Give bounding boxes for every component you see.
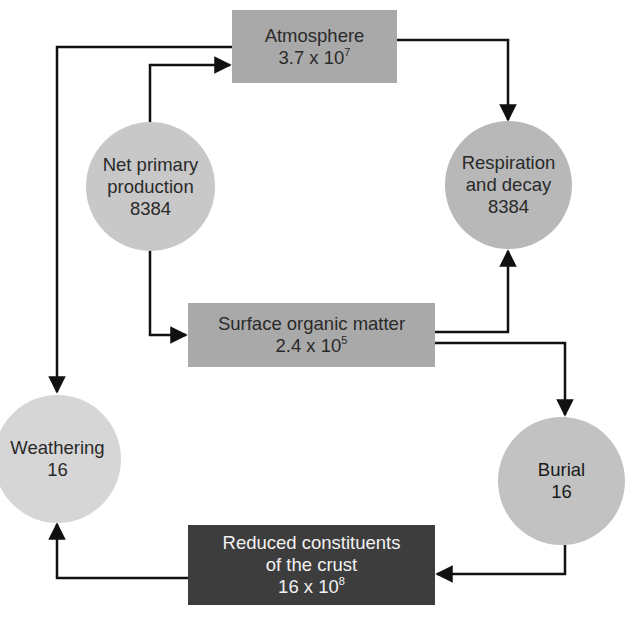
surface-label: Surface organic matter xyxy=(218,313,405,335)
npp-line1: Net primary xyxy=(103,154,199,176)
arrow-surface-to-respiration xyxy=(435,251,508,332)
respiration-decay-circle: Respiration and decay 8384 xyxy=(445,121,572,249)
arrow-crust-to-weathering xyxy=(57,524,188,578)
respiration-line2: and decay xyxy=(466,174,551,196)
surface-value: 2.4 x 105 xyxy=(276,335,348,357)
respiration-value: 8384 xyxy=(488,196,529,218)
npp-value: 8384 xyxy=(130,198,171,220)
burial-value: 16 xyxy=(551,481,572,503)
crust-line2: of the crust xyxy=(266,554,358,576)
arrow-atmosphere-to-respiration xyxy=(397,40,508,120)
surface-organic-matter-box: Surface organic matter 2.4 x 105 xyxy=(188,303,435,367)
arrow-npp-to-surface xyxy=(150,250,186,335)
arrow-npp-to-atmosphere xyxy=(150,65,230,122)
atmosphere-box: Atmosphere 3.7 x 107 xyxy=(232,10,397,83)
crust-line1: Reduced constituents xyxy=(223,532,401,554)
weathering-value: 16 xyxy=(47,459,68,481)
reduced-crust-box: Reduced constituents of the crust 16 x 1… xyxy=(188,525,435,605)
respiration-line1: Respiration xyxy=(462,152,556,174)
npp-line2: production xyxy=(107,176,193,198)
burial-label: Burial xyxy=(538,459,585,481)
weathering-circle: Weathering 16 xyxy=(0,395,121,523)
burial-circle: Burial 16 xyxy=(498,417,625,545)
atmosphere-value: 3.7 x 107 xyxy=(279,47,351,69)
crust-value: 16 x 108 xyxy=(278,576,345,598)
atmosphere-label: Atmosphere xyxy=(265,25,365,47)
weathering-label: Weathering xyxy=(10,437,104,459)
net-primary-production-circle: Net primary production 8384 xyxy=(86,122,215,251)
arrow-burial-to-crust xyxy=(437,545,565,574)
arrow-surface-to-burial xyxy=(435,343,565,415)
